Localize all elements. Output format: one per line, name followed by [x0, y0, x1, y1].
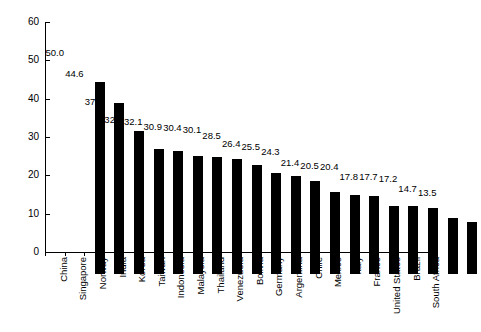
x-axis-category-label: United States	[392, 257, 402, 314]
x-axis-tick	[65, 252, 66, 256]
bar-value-label: 32.1	[124, 117, 143, 127]
x-axis-category-label: Mexico	[333, 257, 343, 287]
bar[interactable]	[467, 222, 477, 274]
bar-slot	[345, 44, 365, 274]
x-axis-category-label: Venezuela	[235, 257, 245, 301]
x-axis-category-label: Argentina	[294, 257, 304, 298]
y-axis-tick-label: 10	[12, 209, 39, 219]
x-axis-category-label: India	[118, 257, 128, 278]
bar-slot	[443, 44, 463, 274]
bar-slot	[306, 44, 326, 274]
x-axis-category-label: Italy	[353, 257, 363, 274]
y-axis-tick-label: 60	[12, 17, 39, 27]
bar-slot	[188, 44, 208, 274]
bar-slot	[90, 44, 110, 274]
bar-slot	[247, 44, 267, 274]
bar-value-label: 32.7	[104, 115, 123, 125]
bar-value-label: 26.4	[222, 139, 241, 149]
y-axis-tick-label: 40	[12, 94, 39, 104]
bar[interactable]	[134, 131, 144, 274]
x-axis-category-label: Bolivia	[255, 257, 265, 285]
bar[interactable]	[95, 82, 105, 274]
bar-value-label: 30.1	[183, 125, 202, 135]
bar-value-label: 21.4	[281, 158, 300, 168]
x-axis-category-label: France	[372, 257, 382, 287]
bar-value-label: 37.4	[85, 97, 104, 107]
bar-value-label: 17.2	[379, 174, 398, 184]
x-axis-tick	[45, 252, 46, 256]
bar-slot	[364, 44, 384, 274]
bar-value-label: 14.7	[398, 184, 417, 194]
bar-value-label: 30.4	[163, 123, 182, 133]
bar-slot	[110, 44, 130, 274]
x-axis-category-label: Norway	[98, 257, 108, 289]
x-axis-category-label: Korea	[137, 257, 147, 282]
y-axis-tick-label: 30	[12, 132, 39, 142]
x-axis-category-label: Chile	[314, 257, 324, 279]
x-axis-category-label: Brazil	[412, 257, 422, 281]
bar[interactable]	[154, 149, 164, 274]
bar-slot	[208, 44, 228, 274]
bar-slot	[404, 44, 424, 274]
x-axis-category-label: Malaysia	[196, 257, 206, 295]
bar[interactable]	[448, 218, 458, 274]
bar[interactable]	[114, 103, 124, 274]
y-axis-tick-label: 50	[12, 55, 39, 65]
bar-slot	[462, 44, 481, 274]
bar-slot	[149, 44, 169, 274]
bar-value-label: 25.5	[242, 142, 261, 152]
x-axis-category-label: Germany	[274, 257, 284, 296]
x-axis-tick	[84, 252, 85, 256]
plot-area	[45, 22, 437, 252]
bar-value-label: 28.5	[202, 131, 221, 141]
y-axis-tick-label: 20	[12, 170, 39, 180]
bar-slot	[384, 44, 404, 274]
bar-slot	[423, 44, 443, 274]
bar-slot	[129, 44, 149, 274]
x-axis-category-label: Indonesia	[176, 257, 186, 298]
bar-value-label: 17.8	[340, 172, 359, 182]
bar-slot	[227, 44, 247, 274]
y-axis-tick-label: 0	[12, 247, 39, 257]
bar-value-label: 50.0	[46, 48, 65, 58]
bar-value-label: 20.5	[300, 161, 319, 171]
x-axis-category-label: Taiwan	[157, 257, 167, 287]
bar-value-label: 13.5	[418, 188, 437, 198]
bar-value-label: 20.4	[320, 162, 339, 172]
x-axis-category-label: South Africa	[431, 257, 441, 308]
bar-value-label: 44.6	[65, 69, 84, 79]
bar-value-label: 30.9	[144, 122, 163, 132]
bar-slot	[168, 44, 188, 274]
bar-slot	[325, 44, 345, 274]
bar[interactable]	[173, 151, 183, 274]
x-axis-category-label: Thailand	[216, 257, 226, 293]
bar-value-label: 17.7	[359, 172, 378, 182]
x-axis-category-label: China	[59, 257, 69, 282]
bar-value-label: 24.3	[261, 147, 280, 157]
x-axis-category-label: Singapore	[78, 257, 88, 300]
